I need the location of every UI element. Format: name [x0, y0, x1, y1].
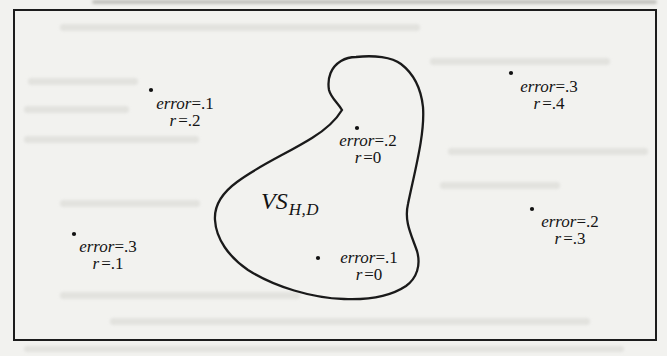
version-space-label: VSH,D [261, 189, 319, 216]
hypothesis-label-outer-upper-right: error=.3 r=.4 [493, 78, 605, 112]
hypothesis-dot [509, 71, 513, 75]
r-value: r=.3 [514, 230, 626, 247]
r-value: r=0 [312, 149, 424, 166]
version-space-drawing [0, 0, 667, 356]
error-value: error=.3 [52, 238, 164, 255]
error-value: error=.2 [514, 213, 626, 230]
hypothesis-label-outer-upper-left: error=.1 r=.2 [129, 95, 241, 129]
version-space-label-main: VS [261, 188, 288, 214]
r-value: r=.1 [52, 255, 164, 272]
version-space-label-subscript: H,D [289, 200, 319, 219]
r-value: r=0 [313, 266, 425, 283]
hypothesis-label-outer-lower-left: error=.3 r=.1 [52, 238, 164, 272]
hypothesis-dot [149, 88, 153, 92]
figure-canvas: error=.1 r=.2 error=.3 r=.4 error=.2 r=0… [0, 0, 667, 356]
error-value: error=.1 [313, 249, 425, 266]
hypothesis-label-inner-lower: error=.1 r=0 [313, 249, 425, 283]
error-value: error=.1 [129, 95, 241, 112]
error-value: error=.2 [312, 132, 424, 149]
hypothesis-dot [72, 232, 76, 236]
hypothesis-label-inner-upper: error=.2 r=0 [312, 132, 424, 166]
hypothesis-label-outer-lower-right: error=.2 r=.3 [514, 213, 626, 247]
r-value: r=.2 [129, 112, 241, 129]
r-value: r=.4 [493, 95, 605, 112]
hypothesis-dot [530, 207, 534, 211]
hypothesis-dot [355, 126, 359, 130]
error-value: error=.3 [493, 78, 605, 95]
